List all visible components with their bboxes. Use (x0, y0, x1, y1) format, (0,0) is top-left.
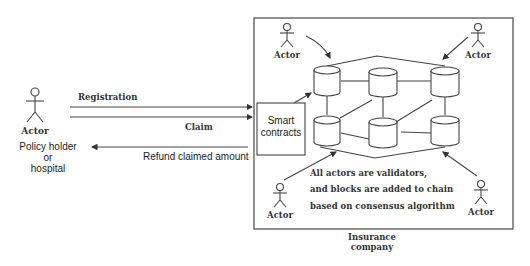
block-node-1 (314, 66, 340, 96)
actor-top-right-label: Actor (464, 50, 491, 60)
actor-bottom-right-icon (474, 181, 488, 205)
refund-label: Refund claimed amount (143, 151, 249, 162)
note-line3: based on consensus algorithm (310, 201, 455, 211)
actor-top-right-icon (471, 24, 485, 48)
actor-top-left-label: Actor (273, 50, 300, 60)
left-actor-icon (26, 88, 44, 122)
claim-label: Claim (185, 122, 213, 132)
container-label-line2: company (351, 242, 394, 252)
contracts-to-node-arrow (294, 93, 311, 103)
actor-top-left-icon (280, 24, 294, 48)
actor-top-left-arrow (306, 36, 330, 58)
block-node-4 (314, 116, 340, 146)
actor-bottom-left-icon (273, 184, 287, 208)
container-label-line1: Insurance (348, 232, 396, 242)
smart-contracts-line2: contracts (261, 127, 302, 138)
left-actor-label: Actor (20, 126, 49, 136)
registration-label: Registration (78, 92, 137, 102)
block-node-6 (431, 116, 459, 146)
note-line1: All actors are validators, (309, 168, 427, 179)
actor-bottom-right-label: Actor (467, 207, 494, 217)
blockchain-insurance-diagram: Actor Policy holder or hospital Registra… (0, 0, 530, 266)
left-actor-role-line2: or (44, 152, 54, 163)
note-line2: and blocks are added to chain (310, 184, 453, 194)
block-node-5 (369, 118, 397, 148)
block-node-3 (431, 67, 459, 97)
smart-contracts-line1: Smart (268, 115, 295, 126)
left-actor-role-line1: Policy holder (19, 141, 77, 152)
actor-bottom-left-label: Actor (266, 210, 293, 220)
actor-bottom-right-arrow (443, 152, 477, 176)
left-actor-role-line3: hospital (31, 163, 65, 174)
block-node-2 (369, 68, 397, 97)
